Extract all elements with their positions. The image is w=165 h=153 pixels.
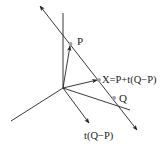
diagram-canvas: P X=P+t(Q−P) Q t(Q−P) bbox=[0, 0, 165, 153]
left-axis bbox=[11, 88, 63, 121]
label-p: P bbox=[77, 36, 83, 47]
point-x bbox=[97, 78, 101, 82]
point-q bbox=[112, 96, 116, 100]
label-q: Q bbox=[119, 93, 127, 104]
line-through-p-q bbox=[40, 6, 137, 130]
point-p bbox=[69, 42, 73, 46]
vector-to-p bbox=[63, 46, 70, 88]
label-direction-vector: t(Q−P) bbox=[84, 131, 113, 142]
label-x-equation: X=P+t(Q−P) bbox=[102, 75, 157, 86]
vector-t-q-minus-p bbox=[63, 88, 89, 123]
vector-to-x bbox=[63, 80, 97, 88]
